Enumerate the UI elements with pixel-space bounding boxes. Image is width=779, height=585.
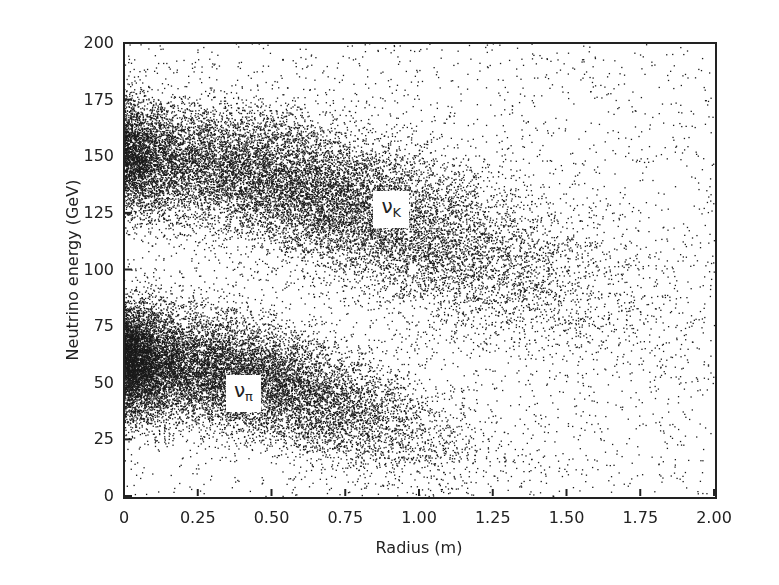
y-tick-label: 25 — [70, 431, 114, 447]
x-tick-label: 0.25 — [168, 510, 228, 526]
y-tick-label: 200 — [70, 35, 114, 51]
scatter-plot-canvas — [0, 0, 779, 585]
y-axis-label: Neutrino energy (GeV) — [63, 180, 82, 361]
series-label-nu-k: νK — [373, 191, 409, 228]
x-tick-label: 1.75 — [610, 510, 670, 526]
y-tick-label: 150 — [70, 148, 114, 164]
label-main: ν — [234, 378, 245, 402]
x-tick-label: 1.25 — [463, 510, 523, 526]
x-tick-label: 1.50 — [537, 510, 597, 526]
y-tick-label: 50 — [70, 375, 114, 391]
label-sub: π — [245, 389, 253, 404]
series-label-nu-pi: νπ — [226, 375, 261, 412]
y-tick-label: 0 — [70, 488, 114, 504]
x-tick-label: 0 — [94, 510, 154, 526]
x-tick-label: 0.50 — [242, 510, 302, 526]
x-tick-label: 2.00 — [684, 510, 744, 526]
label-main: ν — [381, 194, 392, 218]
x-tick-label: 0.75 — [315, 510, 375, 526]
y-tick-label: 175 — [70, 92, 114, 108]
label-sub: K — [393, 205, 402, 220]
x-axis-label: Radius (m) — [376, 538, 463, 557]
x-tick-label: 1.00 — [389, 510, 449, 526]
